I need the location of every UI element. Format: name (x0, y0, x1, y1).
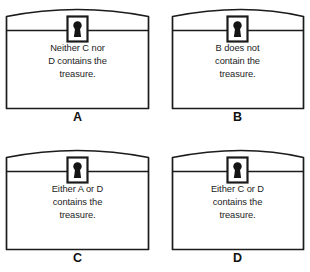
chest-c-statement: Either A or D contains the treasure. (12, 183, 143, 241)
statement-line: contain the (215, 55, 260, 68)
chest-d-label: D (165, 251, 310, 265)
statement-line: Either A or D (52, 183, 104, 196)
chest-d[interactable]: Either C or D contains the treasure. D (155, 136, 310, 272)
statement-line: contains the (53, 196, 103, 209)
statement-line: B does not (216, 42, 260, 55)
chest-c-label: C (0, 251, 155, 265)
chest-b-label: B (165, 110, 310, 124)
statement-line: D contains the (48, 55, 107, 68)
statement-line: Either C or D (211, 183, 264, 196)
statement-line: treasure. (59, 209, 95, 222)
statement-line: contains the (213, 196, 263, 209)
keyhole-icon (68, 17, 88, 42)
keyhole-icon (228, 17, 248, 42)
statement-line: treasure. (219, 209, 255, 222)
statement-line: treasure. (219, 68, 255, 81)
chest-b[interactable]: B does not contain the treasure. B (155, 0, 310, 136)
chest-a-statement: Neither C nor D contains the treasure. (12, 42, 143, 100)
chest-d-statement: Either C or D contains the treasure. (172, 183, 303, 241)
keyhole-icon (228, 158, 248, 183)
chest-c[interactable]: Either A or D contains the treasure. C (0, 136, 155, 272)
statement-line: Neither C nor (50, 42, 105, 55)
chest-b-statement: B does not contain the treasure. (172, 42, 303, 100)
chest-a[interactable]: Neither C nor D contains the treasure. A (0, 0, 155, 136)
chest-grid: Neither C nor D contains the treasure. A… (0, 0, 310, 272)
statement-line: treasure. (59, 68, 95, 81)
keyhole-icon (68, 158, 88, 183)
chest-a-label: A (0, 110, 155, 124)
